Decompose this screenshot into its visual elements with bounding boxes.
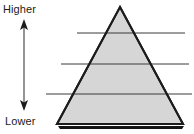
pyramid-shape	[57, 7, 183, 124]
vertical-scale-arrow	[20, 19, 28, 111]
pyramid-base-shadow	[58, 126, 184, 129]
scale-label-higher: Higher	[3, 3, 36, 16]
scale-label-lower: Lower	[5, 115, 35, 128]
pyramid-diagram: Higher Lower	[0, 0, 194, 134]
pyramid-diagram-canvas	[0, 0, 194, 134]
